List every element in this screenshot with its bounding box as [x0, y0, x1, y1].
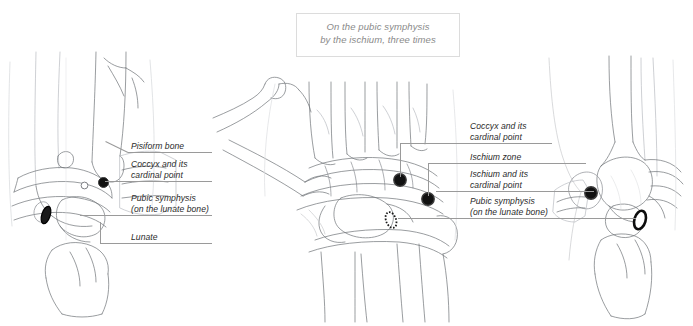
leader-ischium-zone: [466, 163, 586, 164]
leader-pisiform-bone: [128, 152, 212, 153]
leader-ischium-cardinal-to-center: [436, 191, 466, 192]
label-pubic-symphysis-left: Pubic symphysis (on the lunate bone): [131, 193, 209, 214]
label-pisiform-bone: Pisiform bone: [131, 141, 184, 152]
diagram-canvas: On the pubic symphysis by the ischium, t…: [0, 0, 693, 326]
leader-pubic-symphysis-right: [466, 218, 636, 219]
label-lunate-line-1: Lunate: [131, 232, 158, 243]
leader-ischium-zone-to-center: [428, 163, 466, 164]
label-lunate: Lunate: [131, 232, 158, 243]
label-pubic-symphysis-right: Pubic symphysis (on the lunate bone): [470, 196, 548, 217]
label-ischium-cardinal-point: Ischium and its cardinal point: [470, 169, 528, 190]
leader-ischium-zone-riser: [428, 163, 429, 196]
label-pisiform-bone-line-1: Pisiform bone: [131, 141, 184, 152]
leader-coccyx-right: [466, 143, 552, 144]
marker-center-lunate-ellipse: [381, 208, 401, 236]
label-ischium-cardinal-line-2: cardinal point: [470, 180, 528, 191]
leader-lunate: [100, 243, 212, 244]
label-coccyx-left-line-2: cardinal point: [131, 170, 188, 181]
label-pubic-symphysis-right-line-1: Pubic symphysis: [470, 196, 548, 207]
leader-coccyx-right-riser: [400, 143, 401, 177]
leader-pubic-symphysis-right-to-center: [398, 218, 466, 219]
label-ischium-cardinal-line-1: Ischium and its: [470, 169, 528, 180]
leader-lunate-riser: [100, 222, 101, 243]
marker-left-small-circle: [80, 176, 89, 194]
leader-ischium-cardinal: [466, 191, 594, 192]
label-pubic-symphysis-left-line-1: Pubic symphysis: [131, 193, 209, 204]
label-pubic-symphysis-left-line-2: (on the lunate bone): [131, 204, 209, 215]
label-ischium-zone-line-1: Ischium zone: [470, 152, 521, 163]
label-coccyx-right-line-1: Coccyx and its: [470, 121, 527, 132]
marker-left-pisiform-ellipse: [37, 203, 55, 231]
leader-coccyx-right-to-center: [400, 143, 466, 144]
label-coccyx-cardinal-point-right: Coccyx and its cardinal point: [470, 121, 527, 142]
label-coccyx-left-line-1: Coccyx and its: [131, 159, 188, 170]
marker-left-cardinal-dot: [97, 175, 110, 193]
leader-pubic-symphysis-left: [80, 215, 212, 216]
label-coccyx-cardinal-point-left: Coccyx and its cardinal point: [131, 159, 188, 180]
label-ischium-zone: Ischium zone: [470, 152, 521, 163]
leader-coccyx-left: [105, 181, 212, 182]
marker-right-lunate-ellipse: [629, 206, 651, 238]
marker-right-cardinal-dot: [583, 185, 599, 205]
label-pubic-symphysis-right-line-2: (on the lunate bone): [470, 207, 548, 218]
label-coccyx-right-line-2: cardinal point: [470, 132, 527, 143]
